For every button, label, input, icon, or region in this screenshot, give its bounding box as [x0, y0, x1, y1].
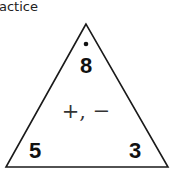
fact-triangle: 8 +, − 5 3 — [0, 0, 174, 177]
dot-icon — [84, 42, 89, 47]
top-number: 8 — [80, 53, 92, 78]
bottom-left-number: 5 — [29, 138, 41, 163]
operations-label: +, − — [62, 99, 111, 123]
bottom-right-number: 3 — [129, 138, 141, 163]
